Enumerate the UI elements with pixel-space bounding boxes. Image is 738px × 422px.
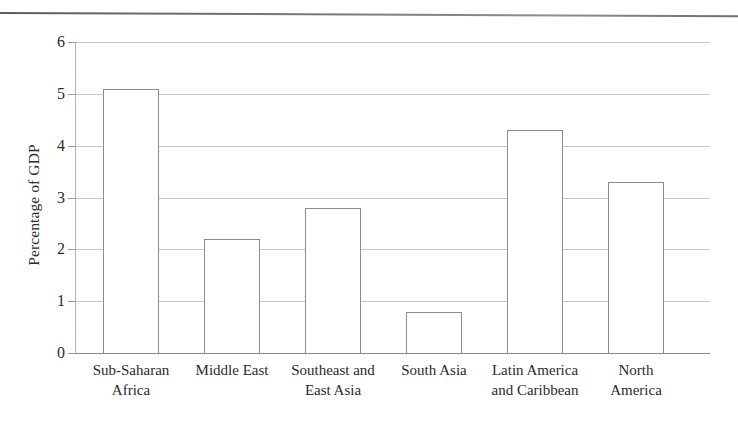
gridline-0 bbox=[75, 353, 710, 354]
y-tick-mark-6 bbox=[68, 42, 76, 43]
y-tick-mark-1 bbox=[68, 301, 76, 302]
bar bbox=[103, 89, 159, 353]
gridline-4 bbox=[75, 146, 710, 147]
bar bbox=[608, 182, 664, 353]
y-tick-label-3: 3 bbox=[41, 190, 65, 206]
bar bbox=[406, 312, 462, 353]
y-tick-mark-0 bbox=[68, 353, 76, 354]
y-tick-label-2: 2 bbox=[41, 241, 65, 257]
gridline-5 bbox=[75, 94, 710, 95]
bar-chart-figure: Percentage of GDP 0123456 Sub-Saharan Af… bbox=[0, 0, 738, 422]
gridline-6 bbox=[75, 42, 710, 43]
y-tick-mark-5 bbox=[68, 94, 76, 95]
y-tick-label-4: 4 bbox=[41, 138, 65, 154]
plot-area: 0123456 bbox=[75, 42, 710, 353]
y-tick-label-1: 1 bbox=[41, 293, 65, 309]
x-axis-category-label: North America bbox=[566, 360, 706, 400]
y-tick-label-6: 6 bbox=[41, 34, 65, 50]
y-tick-label-0: 0 bbox=[41, 345, 65, 361]
bar bbox=[305, 208, 361, 353]
y-tick-mark-4 bbox=[68, 146, 76, 147]
y-tick-mark-3 bbox=[68, 198, 76, 199]
bar bbox=[204, 239, 260, 353]
bar bbox=[507, 130, 563, 353]
y-tick-mark-2 bbox=[68, 249, 76, 250]
y-tick-label-5: 5 bbox=[41, 86, 65, 102]
x-axis-category-labels: Sub-Saharan AfricaMiddle EastSoutheast a… bbox=[75, 360, 710, 416]
